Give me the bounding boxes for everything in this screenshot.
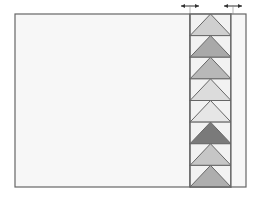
center-panel-rect [15, 14, 190, 187]
outer-border-rect [231, 14, 246, 187]
quilt-diagram [0, 0, 259, 199]
dimension-markers [181, 4, 242, 14]
center-panel [15, 14, 190, 187]
flying-geese-strip [190, 14, 231, 187]
outer-border [231, 14, 246, 187]
outer-border-width-arrow-icon [224, 4, 242, 14]
strip-width-arrow-icon [181, 4, 199, 14]
